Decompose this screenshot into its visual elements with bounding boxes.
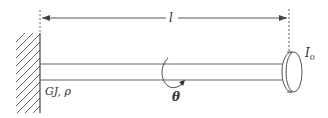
disk-inertia-label: I0 (304, 46, 315, 62)
length-label: l (169, 11, 173, 25)
end-disk (282, 52, 302, 92)
fixed-wall (10, 13, 45, 118)
rotation-arrow-icon (162, 58, 185, 88)
angle-label: θ (172, 90, 180, 104)
diagram-canvas: l I0 θ GJ, ρ (0, 0, 328, 118)
length-dimension: l (42, 11, 287, 25)
shaft-properties-label: GJ, ρ (45, 85, 72, 98)
